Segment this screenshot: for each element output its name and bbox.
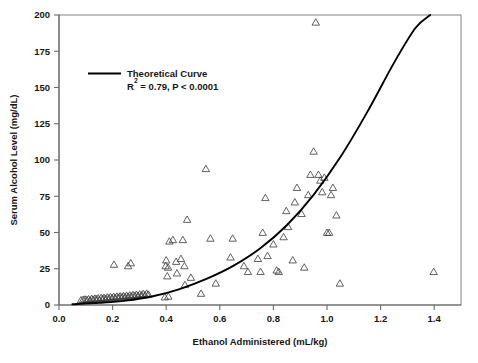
x-tick-label: 0.4 bbox=[160, 313, 174, 324]
y-tick-label: 0 bbox=[45, 299, 50, 310]
y-tick-label: 100 bbox=[34, 154, 50, 165]
legend-label-theoretical-curve: Theoretical Curve bbox=[127, 68, 207, 79]
y-tick-label: 200 bbox=[34, 9, 50, 20]
y-tick-label: 125 bbox=[34, 118, 51, 129]
y-tick-label: 75 bbox=[39, 191, 50, 202]
chart-figure: 0.00.20.40.60.81.01.21.4 025507510012515… bbox=[0, 0, 478, 363]
x-tick-label: 0.6 bbox=[213, 313, 226, 324]
x-tick-label: 1.4 bbox=[428, 313, 442, 324]
x-tick-label: 1.0 bbox=[320, 313, 333, 324]
x-axis-title: Ethanol Administered (mL/kg) bbox=[193, 336, 328, 347]
x-tick-label: 0.2 bbox=[106, 313, 119, 324]
x-tick-label: 1.2 bbox=[374, 313, 387, 324]
y-axis-title: Serum Alcohol Level (mg/dL) bbox=[8, 94, 19, 225]
y-tick-label: 150 bbox=[34, 82, 50, 93]
y-tick-label: 50 bbox=[39, 227, 50, 238]
y-tick-label: 25 bbox=[39, 263, 50, 274]
x-tick-label: 0.8 bbox=[267, 313, 280, 324]
x-tick-label: 0.0 bbox=[52, 313, 65, 324]
legend-stats-rest: = 0.79, P < 0.0001 bbox=[138, 81, 219, 92]
scatter-plot: 0.00.20.40.60.81.01.21.4 025507510012515… bbox=[0, 0, 478, 363]
figure-background bbox=[0, 0, 478, 363]
y-tick-label: 175 bbox=[34, 46, 51, 57]
